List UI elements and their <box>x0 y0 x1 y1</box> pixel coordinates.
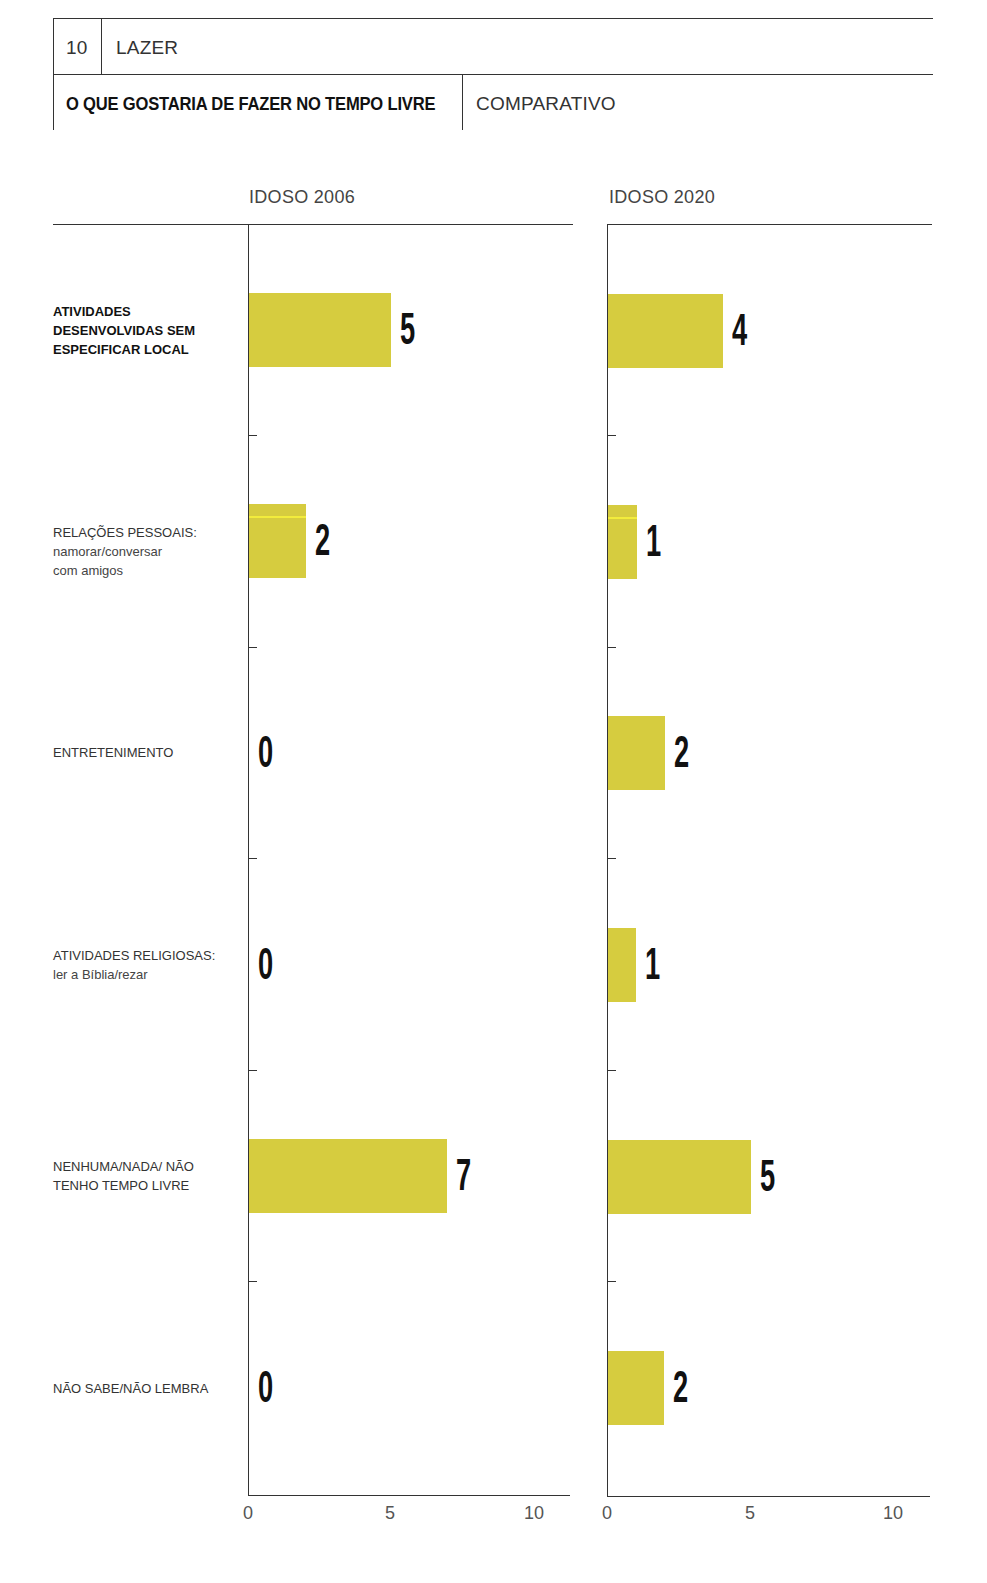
bar-2020-nao-sabe <box>608 1351 664 1425</box>
header-middle-rule <box>53 74 933 75</box>
category-main: NENHUMA/NADA/ NÃO TENHO TEMPO LIVRE <box>53 1157 223 1195</box>
value-label-2020: 2 <box>674 730 689 774</box>
header-number-divider <box>101 18 102 74</box>
value-label-2020: 4 <box>732 308 747 352</box>
bar-2006-atividades <box>249 293 391 367</box>
category-label: NÃO SABE/NÃO LEMBRA <box>53 1379 233 1398</box>
bar-2020-atividades <box>608 294 723 368</box>
category-label: ATIVIDADES RELIGIOSAS: ler a Bíblia/reza… <box>53 946 233 984</box>
value-label-2006: 0 <box>258 730 273 774</box>
bar-2020-nenhuma <box>608 1140 751 1214</box>
bar-2020-religiosas <box>608 928 636 1002</box>
chart-top-rule-right <box>608 224 932 225</box>
panel-title-2020: IDOSO 2020 <box>609 187 715 208</box>
section-title: LAZER <box>116 37 178 59</box>
y-axis-2006 <box>248 224 249 1495</box>
panel-title-2006: IDOSO 2006 <box>249 187 355 208</box>
row-tick <box>608 1281 616 1282</box>
section-number: 10 <box>66 37 88 59</box>
x-tick-label-2006: 0 <box>243 1503 253 1524</box>
row-tick <box>608 1070 616 1071</box>
value-label-2006: 2 <box>315 518 330 562</box>
category-label: NENHUMA/NADA/ NÃO TENHO TEMPO LIVRE <box>53 1157 223 1195</box>
value-label-2020: 1 <box>646 519 661 563</box>
value-label-2006: 0 <box>258 942 273 986</box>
bar-2006-nenhuma <box>249 1139 447 1213</box>
row-tick <box>249 647 257 648</box>
value-label-2020: 1 <box>645 942 660 986</box>
value-label-2006: 7 <box>456 1153 471 1197</box>
value-label-2020: 2 <box>673 1365 688 1409</box>
x-tick-label-2020: 5 <box>745 1503 755 1524</box>
row-tick <box>608 435 616 436</box>
question-title: O QUE GOSTARIA DE FAZER NO TEMPO LIVRE <box>66 94 435 115</box>
row-tick <box>249 858 257 859</box>
category-main: NÃO SABE/NÃO LEMBRA <box>53 1379 233 1398</box>
header-top-rule <box>53 18 933 19</box>
value-label-2006: 5 <box>400 307 415 351</box>
category-main: ENTRETENIMENTO <box>53 743 233 762</box>
x-tick-label-2020: 10 <box>883 1503 903 1524</box>
row-tick <box>249 435 257 436</box>
row-tick <box>249 1070 257 1071</box>
row-tick <box>608 647 616 648</box>
question-type: COMPARATIVO <box>476 93 616 115</box>
bar-2006-relacoes <box>249 504 306 578</box>
category-main: ATIVIDADES DESENVOLVIDAS SEM ESPECIFICAR… <box>53 302 203 359</box>
y-axis-2020 <box>607 224 608 1496</box>
category-main: ATIVIDADES RELIGIOSAS: <box>53 946 233 965</box>
category-main: RELAÇÕES PESSOAIS: <box>53 523 203 542</box>
category-sub: ler a Bíblia/rezar <box>53 965 233 984</box>
chart-top-rule-left <box>53 224 573 225</box>
value-label-2006: 0 <box>258 1365 273 1409</box>
value-label-2020: 5 <box>760 1154 775 1198</box>
x-axis-2006 <box>248 1495 570 1496</box>
row-tick <box>608 858 616 859</box>
category-label: ENTRETENIMENTO <box>53 743 233 762</box>
row-tick <box>249 1281 257 1282</box>
bar-2020-entretenimento <box>608 716 665 790</box>
x-tick-label-2020: 0 <box>602 1503 612 1524</box>
category-label: ATIVIDADES DESENVOLVIDAS SEM ESPECIFICAR… <box>53 302 203 359</box>
bar-2020-relacoes <box>608 505 637 579</box>
x-tick-label-2006: 10 <box>524 1503 544 1524</box>
category-sub: namorar/conversar com amigos <box>53 542 178 580</box>
x-tick-label-2006: 5 <box>385 1503 395 1524</box>
x-axis-2020 <box>607 1496 930 1497</box>
category-label: RELAÇÕES PESSOAIS: namorar/conversar com… <box>53 523 203 580</box>
header-question-divider <box>462 74 463 130</box>
